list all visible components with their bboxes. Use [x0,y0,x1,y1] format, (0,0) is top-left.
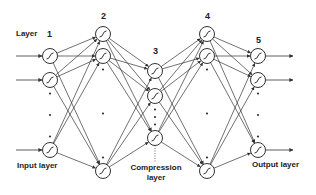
ellipsis-dot [102,68,104,70]
input-layer-label: Input layer [17,162,57,170]
layer-5-number: 5 [256,36,261,45]
ellipsis-dot [257,92,259,94]
connection-line [56,39,97,75]
connection-line [109,38,148,66]
connection-line [210,63,255,164]
layer-2-number: 2 [101,12,106,21]
ellipsis-dot [257,135,259,137]
neuron-node [96,27,111,42]
autoencoder-diagram: Layer 1 2 3 4 5 Input layer Compression … [0,0,316,195]
ellipsis-dot [206,156,208,158]
ellipsis-dot [154,108,156,110]
ellipsis-dot [49,135,51,137]
ellipsis-dot [49,114,51,116]
ellipsis-dot [206,68,208,70]
neuron-node [200,49,215,64]
ellipsis-dot [102,112,104,114]
neuron-node [96,49,111,64]
neuron-node [251,73,266,88]
connection-line [213,39,252,75]
compression-layer-label-line2: layer [126,174,186,182]
neuron-node [200,164,215,179]
neuron-node [148,89,163,104]
connection-line [158,41,203,131]
ellipsis-dot [206,112,208,114]
neuron-node [200,27,215,42]
connection-line [57,153,96,168]
ellipsis-dot [154,116,156,118]
neuron-node [96,164,111,179]
layer-1-number: 1 [47,30,52,39]
connection-line [214,153,251,168]
connection-line [110,58,147,69]
layer-4-number: 4 [205,12,210,21]
ellipsis-dot [154,123,156,125]
neuron-node [43,143,58,158]
ellipsis-dot [49,92,51,94]
neuron-node [251,49,266,64]
neuron-node [251,143,266,158]
ellipsis-dot [257,114,259,116]
ellipsis-dot [102,156,104,158]
connection-line [159,102,202,164]
connection-line [211,63,255,143]
connection-line [161,39,200,67]
connection-line [54,86,99,164]
neuron-node [43,73,58,88]
connection-line [214,59,251,76]
neuron-node [43,49,58,64]
compression-layer-label-line1: Compression [126,164,186,172]
neuron-node [148,64,163,79]
layer-label: Layer [16,30,37,38]
connection-line [53,63,100,164]
neuron-node [148,131,163,146]
output-layer-label: Output layer [252,161,299,169]
connection-line [53,41,100,143]
connection-line [158,78,203,164]
connection-line [106,41,151,131]
connection-line [107,103,150,165]
layer-3-number: 3 [153,47,158,56]
